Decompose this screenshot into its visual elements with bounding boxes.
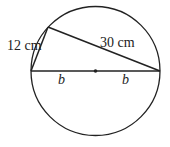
label-12cm: 12 cm <box>7 38 42 53</box>
label-b-left: b <box>58 72 65 87</box>
circle-diagram: 12 cm 30 cm b b <box>0 0 170 147</box>
center-point <box>94 69 98 73</box>
label-b-right: b <box>122 72 129 87</box>
label-30cm: 30 cm <box>100 35 135 50</box>
